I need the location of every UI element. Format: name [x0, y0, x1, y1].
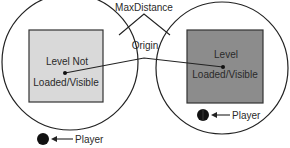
right-level-label-line2: Loaded/Visible	[192, 69, 258, 80]
right-level-box	[187, 30, 263, 103]
right-player-label: Player	[232, 110, 261, 121]
left-player-label: Player	[75, 134, 104, 145]
left-player-icon	[37, 133, 49, 145]
left-player-arrow-head	[51, 136, 57, 142]
origin-label: Origin	[132, 40, 159, 51]
max-distance-label: MaxDistance	[115, 2, 173, 13]
left-level-label-line1: Level Not	[46, 56, 88, 67]
left-level-label-line2: Loaded/Visible	[33, 77, 99, 88]
right-level-label-line1: Level	[214, 49, 238, 60]
right-player-arrow-head	[211, 112, 217, 118]
level-streaming-diagram: MaxDistance Origin Level Not Loaded/Visi…	[0, 0, 290, 148]
left-origin-dot	[63, 71, 67, 75]
